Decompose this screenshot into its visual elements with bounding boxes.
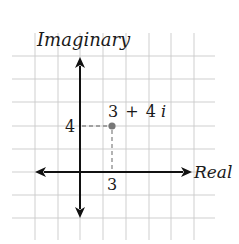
imaginary-unit: i [161, 102, 166, 121]
point-label-plus: + [125, 102, 138, 121]
point-marker [108, 122, 115, 129]
point-label-real: 3 [108, 102, 118, 121]
real-tick-label: 3 [107, 175, 117, 194]
imaginary-axis-label: Imaginary [36, 29, 131, 50]
grid [12, 33, 215, 240]
imaginary-axis [75, 57, 85, 218]
complex-plane-diagram: Imaginary Real 4 3 3 + 4 i [0, 0, 239, 244]
imaginary-tick-label: 4 [65, 117, 75, 136]
real-axis-label: Real [193, 162, 232, 182]
point-label: 3 + 4 i [108, 102, 166, 121]
point-label-imag: 4 [146, 102, 156, 121]
